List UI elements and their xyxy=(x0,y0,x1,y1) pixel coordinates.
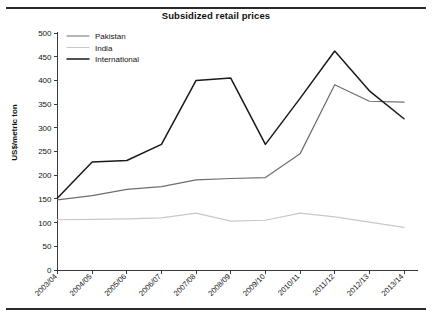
x-tick-label: 2003/04 xyxy=(33,272,59,298)
y-tick-label: 50 xyxy=(43,242,52,251)
chart-plot-area: 0501001502002503003504004505002003/04200… xyxy=(0,0,432,320)
x-tick-label: 2010/11 xyxy=(276,272,301,297)
legend-label-international: International xyxy=(95,55,139,64)
y-tick-label: 450 xyxy=(38,53,52,62)
x-tick-label: 2007/08 xyxy=(172,272,198,298)
bottom-divider-rule xyxy=(6,308,426,310)
x-tick-label: 2009/10 xyxy=(241,272,267,298)
x-tick-label: 2011/12 xyxy=(311,272,336,297)
y-tick-label: 500 xyxy=(38,29,52,38)
y-tick-label: 250 xyxy=(38,147,52,156)
series-line-india xyxy=(58,213,405,227)
x-tick-label: 2008/09 xyxy=(206,272,232,298)
y-tick-label: 300 xyxy=(38,124,52,133)
series-line-international xyxy=(58,51,405,198)
figure-container: Subsidized retail prices US$/metric ton … xyxy=(0,0,432,320)
x-tick-label: 2004/05 xyxy=(68,272,94,298)
x-tick-label: 2005/06 xyxy=(102,272,128,298)
y-tick-label: 200 xyxy=(38,171,52,180)
x-tick-label: 2012/13 xyxy=(345,272,371,298)
series-line-pakistan xyxy=(58,85,405,200)
y-tick-label: 400 xyxy=(38,76,52,85)
legend-label-india: India xyxy=(95,44,113,53)
x-tick-label: 2013/14 xyxy=(380,272,406,298)
y-tick-label: 150 xyxy=(38,195,52,204)
legend-label-pakistan: Pakistan xyxy=(95,32,126,41)
x-tick-label: 2006/07 xyxy=(137,272,163,298)
y-tick-label: 100 xyxy=(38,219,52,228)
y-tick-label: 350 xyxy=(38,100,52,109)
